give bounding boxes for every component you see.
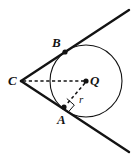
point-dot-q (83, 78, 88, 83)
label-radius-r: r (79, 94, 83, 105)
tangent-line-upper (21, 10, 129, 81)
label-point-c: C (8, 74, 17, 87)
geometry-figure: B C Q A r (0, 0, 133, 161)
label-point-b: B (52, 36, 61, 49)
point-dot-a (61, 104, 66, 109)
geometry-canvas (0, 0, 133, 161)
point-dot-b (62, 49, 67, 54)
tangent-line-lower (21, 81, 129, 152)
label-point-a: A (57, 113, 66, 126)
label-point-q: Q (90, 74, 99, 87)
